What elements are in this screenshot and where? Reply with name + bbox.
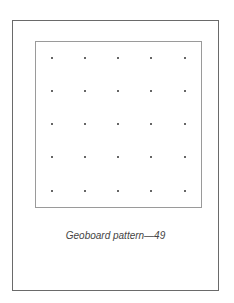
peg-dot (150, 90, 152, 92)
figure-caption: Geoboard pattern—49 (12, 230, 219, 241)
peg-dot (150, 190, 152, 192)
peg-dot (51, 123, 53, 125)
peg-dot (184, 156, 186, 158)
peg-dot (51, 57, 53, 59)
peg-dot (184, 57, 186, 59)
peg-dot (51, 190, 53, 192)
peg-dot (184, 123, 186, 125)
peg-dot (51, 156, 53, 158)
peg-dot (84, 123, 86, 125)
peg-dot (184, 190, 186, 192)
peg-dot (84, 57, 86, 59)
peg-dot (117, 90, 119, 92)
peg-dot (84, 190, 86, 192)
peg-dot (117, 156, 119, 158)
peg-dot (150, 57, 152, 59)
peg-dot (84, 90, 86, 92)
peg-dot (84, 156, 86, 158)
peg-dot (117, 123, 119, 125)
peg-dot (117, 57, 119, 59)
peg-dot (150, 123, 152, 125)
peg-dot (150, 156, 152, 158)
peg-dot (184, 90, 186, 92)
peg-dot (117, 190, 119, 192)
peg-dot (51, 90, 53, 92)
